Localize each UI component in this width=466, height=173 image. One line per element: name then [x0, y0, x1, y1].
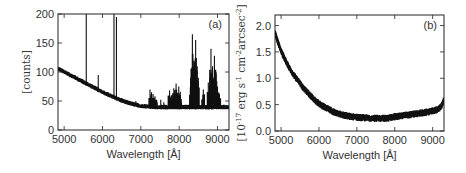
- x-tick-label: 6000: [307, 134, 331, 146]
- ylabel-mid1: erg s: [235, 83, 247, 113]
- panel-a-frame: [58, 14, 229, 130]
- x-tick-label: 8000: [167, 133, 191, 145]
- x-tick-label: 8000: [382, 134, 406, 146]
- y-tick-label: 150: [36, 37, 54, 49]
- ylabel-exp1: -17: [235, 113, 243, 124]
- panel-a-label: (a): [209, 18, 222, 30]
- panel-a-y-axis-title: [counts]: [20, 50, 32, 94]
- panel-b-spectrum-line: [275, 34, 444, 119]
- panel-b-plot-area: [275, 30, 444, 122]
- y-tick-label: 0.5: [256, 99, 271, 111]
- panel-b-spectrum: [275, 30, 444, 122]
- ylabel-mid2: cm: [235, 57, 247, 76]
- panel-a: 50006000700080009000 050100150200 (a) Wa…: [20, 8, 230, 160]
- panel-b: 50006000700080009000 0.00.51.01.52.0 (b)…: [235, 4, 445, 161]
- ylabel-base: [10: [235, 124, 247, 141]
- y-tick-label: 50: [42, 95, 54, 107]
- ylabel-exp3: -2: [235, 50, 243, 57]
- x-tick-label: 6000: [90, 133, 114, 145]
- x-tick-label: 9000: [420, 134, 444, 146]
- ylabel-mid3: arcsec: [235, 15, 247, 50]
- ylabel-exp2: -1: [235, 76, 243, 83]
- panel-b-label: (b): [424, 19, 437, 31]
- panel-a-x-axis-title: Wavelength [Å]: [106, 148, 180, 160]
- x-tick-label: 7000: [345, 134, 369, 146]
- y-tick-label: 1.5: [256, 46, 271, 58]
- ylabel-end: ]: [235, 4, 247, 8]
- ylabel-exp4: -2: [235, 9, 243, 16]
- y-tick-label: 0: [48, 124, 54, 136]
- panel-a-plot-area: [58, 14, 229, 109]
- y-tick-label: 1.0: [256, 72, 271, 84]
- y-tick-label: 200: [36, 8, 54, 20]
- x-tick-label: 9000: [205, 133, 229, 145]
- x-tick-label: 5000: [52, 133, 76, 145]
- panel-b-x-axis-title: Wavelength [Å]: [322, 149, 396, 161]
- y-tick-label: 2.0: [256, 20, 271, 32]
- y-tick-label: 0.0: [256, 125, 271, 137]
- figure: 50006000700080009000 050100150200 (a) Wa…: [0, 0, 466, 173]
- x-tick-label: 7000: [129, 133, 153, 145]
- x-tick-label: 5000: [269, 134, 293, 146]
- panel-b-y-axis-title: [10-17 erg s-1 cm-2arcsec-2]: [235, 4, 247, 141]
- y-tick-label: 100: [36, 66, 54, 78]
